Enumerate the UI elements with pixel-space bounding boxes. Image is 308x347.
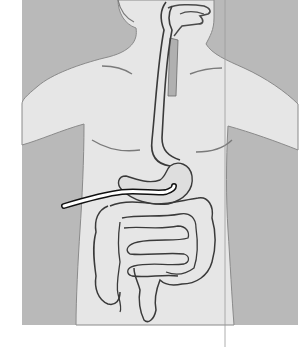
anatomy-diagram (0, 0, 308, 347)
diagram-svg (0, 0, 308, 347)
